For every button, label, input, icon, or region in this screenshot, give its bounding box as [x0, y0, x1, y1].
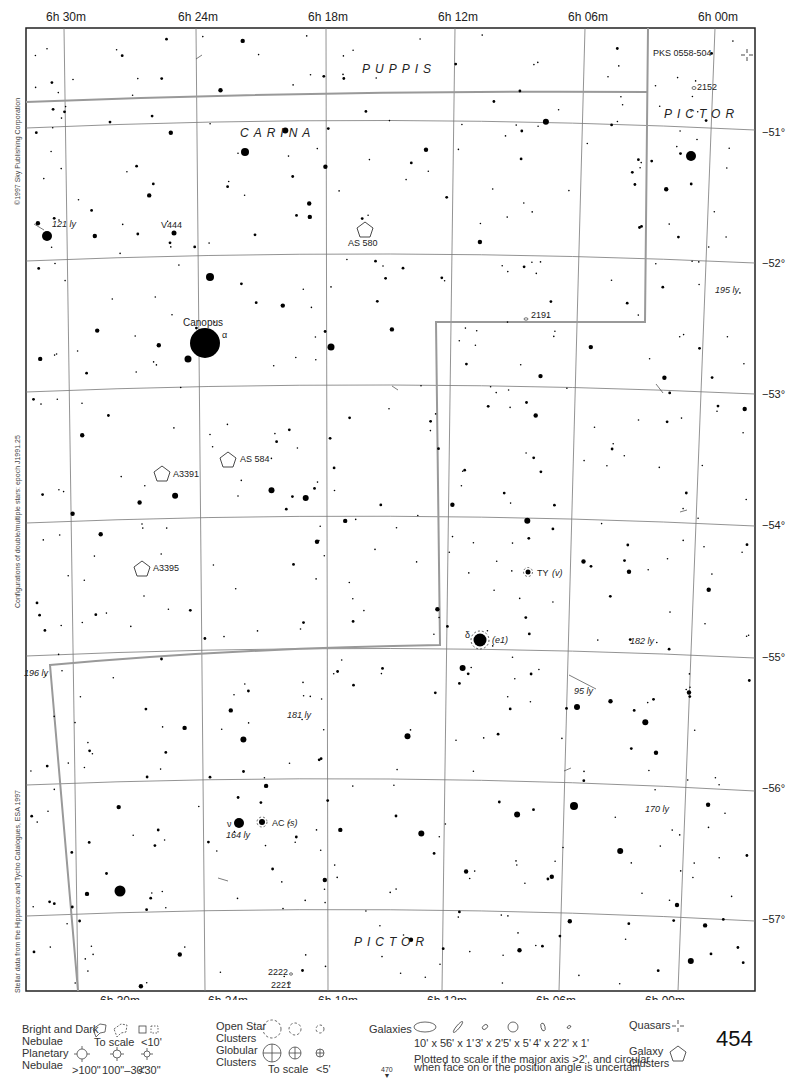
star [74, 982, 76, 984]
star [702, 465, 704, 467]
star [402, 267, 405, 270]
star [320, 757, 323, 760]
star [32, 398, 35, 401]
star [659, 105, 661, 107]
star [469, 951, 471, 953]
star [396, 527, 398, 529]
star [480, 223, 482, 225]
star [212, 446, 214, 448]
dec-label: −51° [762, 126, 785, 138]
star [420, 385, 422, 387]
star [679, 130, 681, 132]
star [352, 50, 354, 52]
star [710, 953, 713, 956]
star [135, 165, 138, 168]
star [88, 841, 91, 844]
star [227, 424, 229, 426]
legend-label: Open Star [216, 1020, 266, 1032]
legend-galaxy-clusters: Galaxy Clusters [629, 1045, 669, 1069]
star [680, 870, 682, 872]
star [121, 54, 124, 57]
star [153, 361, 155, 363]
star [67, 575, 69, 577]
distance-label: 95 ly [574, 686, 594, 696]
star [146, 776, 149, 779]
star [698, 347, 701, 350]
galaxy-symbols [412, 1019, 592, 1037]
star [273, 365, 275, 367]
star [264, 777, 266, 779]
galaxy-note: when face on or the position angle is un… [414, 1061, 641, 1073]
star [512, 542, 514, 544]
planetary-nebula-symbols [72, 1044, 162, 1066]
nu-label: ν [227, 819, 232, 829]
star [587, 143, 589, 145]
star [493, 100, 496, 103]
star [323, 878, 327, 882]
star [633, 709, 636, 712]
star [36, 821, 38, 823]
star [454, 63, 457, 66]
star [393, 784, 395, 786]
star [655, 263, 657, 265]
star [334, 490, 336, 492]
next-page-link[interactable]: 470 ▼ [381, 1066, 393, 1079]
star [171, 314, 173, 316]
star [143, 595, 145, 597]
star [182, 726, 186, 730]
star [455, 739, 457, 741]
down-arrow-icon: ▼ [381, 1073, 393, 1079]
galaxy-size-label: 10' x 5' [414, 1037, 448, 1049]
star [291, 175, 294, 178]
star [63, 110, 66, 113]
delta-star [474, 634, 487, 647]
star [524, 882, 526, 884]
star [424, 148, 428, 152]
star [638, 314, 640, 316]
star [703, 546, 705, 548]
star [297, 447, 299, 449]
v444-label: V444 [161, 220, 182, 230]
star [130, 626, 132, 628]
star [274, 433, 276, 435]
star [106, 612, 108, 614]
star [611, 280, 613, 282]
star [617, 848, 623, 854]
star [507, 271, 509, 273]
star [537, 125, 539, 127]
legend-galaxies: Galaxies [369, 1023, 412, 1035]
star [220, 971, 222, 973]
star [375, 77, 377, 79]
star [704, 623, 706, 625]
star [223, 636, 225, 638]
star [264, 784, 268, 788]
planetary-nebula-medium-icon [113, 1050, 121, 1058]
ngc-2191-label: 2191 [531, 310, 551, 320]
star [134, 335, 136, 337]
small-size-label: <5' [316, 1063, 331, 1075]
star [333, 673, 335, 675]
star [561, 738, 563, 740]
star [285, 508, 288, 511]
galaxy-5x5-icon [508, 1022, 518, 1032]
star [317, 148, 319, 150]
star [352, 684, 355, 687]
star [122, 224, 124, 226]
star [36, 602, 39, 605]
galaxy-size-label: 3' x 2' [475, 1037, 503, 1049]
star [654, 789, 656, 791]
star [473, 542, 475, 544]
star [528, 633, 531, 636]
star [465, 327, 467, 329]
star [622, 104, 624, 106]
star [660, 845, 662, 847]
legend-planetary-nebulae: Planetary Nebulae [22, 1047, 68, 1071]
star [80, 696, 82, 698]
star [746, 543, 749, 546]
star [85, 372, 88, 375]
star [349, 582, 351, 584]
star [173, 427, 175, 429]
star [169, 241, 172, 244]
star [727, 336, 729, 338]
star [493, 590, 495, 592]
